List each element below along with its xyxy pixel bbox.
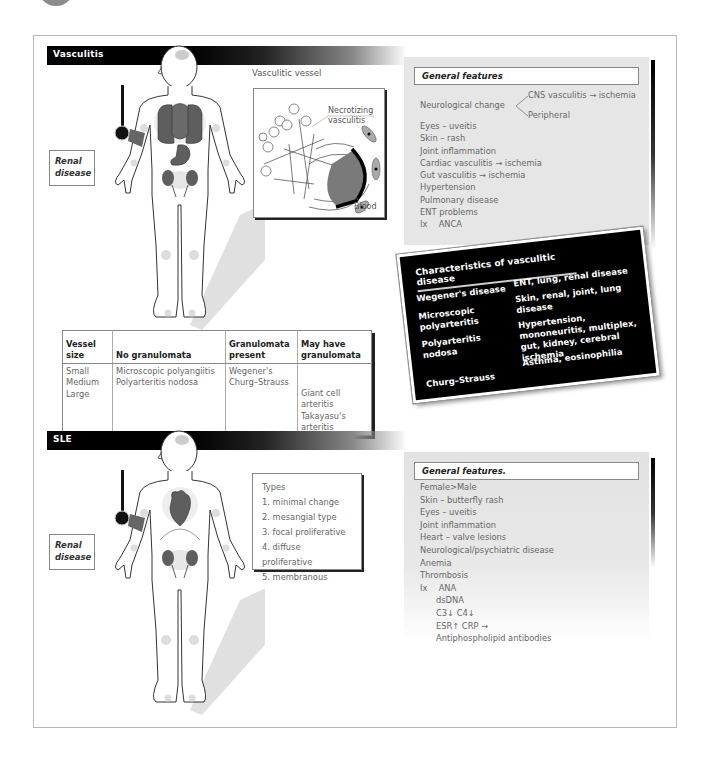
disease-entry: Wegener's — [229, 366, 294, 377]
general-features-heading: General features — [414, 67, 639, 85]
cns-vasculitis-branch: CNS vasculitis → ischemia — [528, 90, 636, 100]
feature-item: Eyes – uveitis — [420, 120, 542, 132]
sle-features-list: Female>Male Skin – butterfly rash Eyes –… — [420, 481, 554, 645]
vessel-size-cell: Small Medium Large — [63, 364, 113, 436]
feature-item: ENT problems — [420, 206, 542, 218]
renal-label-text: Renal disease — [55, 156, 91, 178]
feature-item: Thrombosis — [420, 569, 554, 582]
feature-item: Joint inflammation — [420, 145, 542, 157]
disease-name: Microscopic polyarteritis — [418, 301, 510, 333]
type-item: 5. membranous — [262, 570, 352, 585]
column-header: May have granulomata — [298, 331, 372, 364]
column-header: No granulomata — [113, 331, 226, 364]
feature-item: Neurological/psychiatric disease — [420, 544, 554, 557]
feature-item: Skin – butterfly rash — [420, 494, 554, 507]
disease-entry: Polyarteritis nodosa — [116, 377, 222, 388]
vessel-size-table: Vessel size No granulomata Granulomata p… — [62, 330, 372, 436]
investigation-item: dsDNA — [420, 594, 554, 607]
vasculitis-features-list: Eyes – uveitis Skin – rash Joint inflamm… — [420, 120, 542, 231]
body-figure-vasculitis — [90, 45, 265, 335]
vessel-diagram-title: Vasculitic vessel — [252, 68, 321, 78]
investigation-item: Antiphospholipid antibodies — [420, 632, 554, 645]
disease-name: Churg–Strauss — [426, 369, 517, 390]
panel-shadow-edge — [651, 458, 655, 568]
feature-item: Skin – rash — [420, 132, 542, 144]
disease-entry: Giant cell arteritis — [301, 388, 368, 411]
renal-disease-label: Renal disease — [49, 150, 95, 186]
vasculitis-general-features-panel: General features Neurological change CNS… — [404, 57, 649, 245]
types-heading: Types — [262, 480, 352, 495]
investigation-item: C3↓ C4↓ — [420, 607, 554, 620]
investigation-item: Ix ANCA — [420, 218, 542, 230]
disease-entry: Churg–Strauss — [229, 377, 294, 388]
vasculitic-vessel-diagram: Necrotizing vasculitis Blood — [253, 88, 385, 218]
renal-label-text: Renal disease — [55, 540, 91, 562]
neurological-change-branch: Neurological change CNS vasculitis → isc… — [420, 90, 650, 120]
sle-general-features-panel: General features. Female>Male Skin – but… — [404, 452, 649, 642]
type-item: 1. minimal change — [262, 495, 352, 510]
table-row: Small Medium Large Microscopic polyangii… — [63, 364, 372, 436]
body-figure-sle — [90, 430, 265, 720]
feature-item: Heart – valve lesions — [420, 531, 554, 544]
peripheral-branch: Peripheral — [528, 110, 570, 120]
feature-item: Cardiac vasculitis → ischemia — [420, 157, 542, 169]
feature-item: Hypertension — [420, 181, 542, 193]
panel-shadow-edge — [651, 60, 655, 250]
ix-prefix: Ix — [420, 582, 436, 595]
investigation-test: ANA — [439, 583, 457, 593]
investigation-test: ANCA — [439, 219, 462, 229]
section-title: SLE — [53, 434, 72, 444]
granulomata-present-cell: Wegener's Churg–Strauss — [226, 364, 298, 436]
investigation-item: Ix ANA — [420, 582, 554, 595]
no-granulomata-cell: Microscopic polyangiitis Polyarteritis n… — [113, 364, 226, 436]
feature-item: Pulmonary disease — [420, 194, 542, 206]
size-large: Large — [66, 389, 109, 400]
feature-item: Gut vasculitis → ischemia — [420, 169, 542, 181]
type-item: 4. diffuse proliferative — [262, 540, 352, 570]
disease-entry: Microscopic polyangiitis — [116, 366, 222, 377]
ix-prefix: Ix — [420, 218, 436, 230]
lupus-nephritis-types-box: Types 1. minimal change 2. mesangial typ… — [252, 473, 362, 570]
feature-item: Anemia — [420, 557, 554, 570]
feature-item: Female>Male — [420, 481, 554, 494]
renal-disease-label: Renal disease — [49, 534, 95, 570]
page-corner-tab — [38, 0, 74, 6]
necrotizing-vasculitis-label: Necrotizing vasculitis — [328, 106, 383, 126]
column-header: Vessel size — [63, 331, 113, 364]
column-header: Granulomata present — [226, 331, 298, 364]
table-header-row: Vessel size No granulomata Granulomata p… — [63, 331, 372, 364]
blood-label: Blood — [354, 202, 377, 212]
feature-item: Eyes – uveitis — [420, 506, 554, 519]
may-have-granulomata-cell: Giant cell arteritis Takayasu's arteriti… — [298, 364, 372, 436]
disease-name: Polyarteritis nodosa — [421, 329, 513, 361]
investigation-item: ESR↑ CRP → — [420, 620, 554, 633]
type-item: 2. mesangial type — [262, 510, 352, 525]
disease-entry: Takayasu's arteritis — [301, 411, 368, 434]
size-medium: Medium — [66, 377, 109, 388]
size-small: Small — [66, 366, 109, 377]
type-item: 3. focal proliferative — [262, 525, 352, 540]
neurological-change-label: Neurological change — [420, 100, 505, 110]
characteristics-card: Characteristics of vasculitic disease We… — [396, 226, 659, 403]
feature-item: Joint inflammation — [420, 519, 554, 532]
general-features-heading: General features. — [414, 462, 639, 480]
